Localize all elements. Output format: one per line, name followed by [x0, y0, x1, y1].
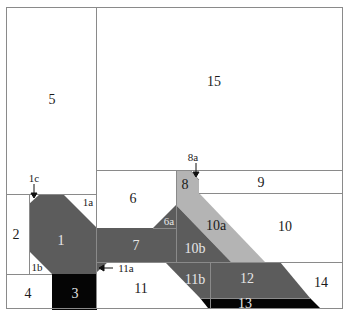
label-10a: 10a: [206, 218, 227, 233]
label-6a: 6a: [164, 215, 175, 227]
label-6: 6: [130, 191, 137, 206]
label-1a: 1a: [83, 196, 94, 208]
label-1c: 1c: [29, 172, 40, 184]
label-14: 14: [314, 275, 328, 290]
label-3: 3: [72, 286, 79, 301]
label-11a: 11a: [118, 262, 134, 274]
label-10: 10: [278, 219, 292, 234]
label-8a: 8a: [188, 151, 199, 163]
label-4: 4: [25, 286, 32, 301]
region-partition-diagram: 5 15 1c 8a 6 8 9 1a 2 1 1b 6a 7 10a 10 1…: [0, 0, 345, 313]
region-13-shape: [200, 298, 320, 308]
label-8: 8: [182, 177, 189, 192]
label-12: 12: [240, 271, 254, 286]
arrow-1c: [31, 184, 37, 198]
label-11: 11: [134, 281, 147, 296]
label-15: 15: [207, 74, 221, 89]
label-2: 2: [13, 227, 20, 242]
label-9: 9: [258, 175, 265, 190]
label-5: 5: [49, 92, 56, 107]
label-7: 7: [133, 238, 140, 253]
label-11b: 11b: [185, 272, 205, 287]
label-1b: 1b: [32, 261, 44, 273]
label-13: 13: [238, 296, 252, 311]
label-1: 1: [58, 233, 65, 248]
label-10b: 10b: [185, 241, 206, 256]
